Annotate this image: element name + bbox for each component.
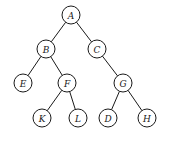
tree-node-L: L bbox=[69, 109, 87, 127]
edge-A-B bbox=[51, 22, 65, 41]
node-label: L bbox=[74, 114, 81, 124]
node-label: K bbox=[38, 114, 47, 124]
node-label: A bbox=[67, 11, 75, 21]
edge-F-K bbox=[47, 90, 62, 110]
tree-node-G: G bbox=[114, 74, 132, 92]
node-label: D bbox=[103, 114, 111, 124]
tree-node-B: B bbox=[37, 40, 55, 58]
edge-B-F bbox=[51, 57, 63, 76]
edge-G-D bbox=[112, 91, 120, 109]
node-label: B bbox=[42, 45, 50, 55]
edge-G-H bbox=[128, 90, 142, 110]
node-label: G bbox=[119, 79, 126, 89]
tree-node-F: F bbox=[58, 74, 76, 92]
tree-node-H: H bbox=[138, 109, 156, 127]
tree-node-E: E bbox=[14, 74, 32, 92]
tree-node-K: K bbox=[33, 109, 51, 127]
node-label: C bbox=[94, 45, 101, 55]
edge-B-E bbox=[28, 56, 41, 75]
binary-tree-diagram: ABCEFGKLDH bbox=[0, 0, 170, 141]
node-label: H bbox=[142, 114, 151, 124]
tree-node-C: C bbox=[88, 40, 106, 58]
tree-node-D: D bbox=[99, 109, 117, 127]
edge-C-G bbox=[102, 56, 117, 76]
node-label: F bbox=[63, 79, 71, 89]
node-label: E bbox=[19, 79, 27, 89]
edge-F-L bbox=[70, 92, 76, 110]
tree-nodes: ABCEFGKLDH bbox=[14, 6, 156, 127]
tree-edges bbox=[28, 22, 142, 111]
tree-node-A: A bbox=[62, 6, 80, 24]
edge-A-C bbox=[76, 22, 91, 42]
